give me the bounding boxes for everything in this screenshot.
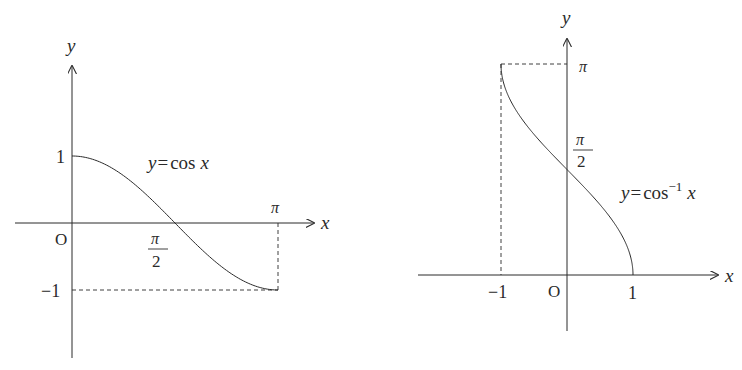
arccos-function-label: y=cos−1x	[619, 179, 696, 203]
left-x-axis-label: x	[320, 212, 330, 233]
diagram-canvas: y x O 1 −1 π 2 π y=cosx y x O −1 1 π π 2	[0, 0, 742, 370]
left-tick-pi: π	[271, 199, 280, 216]
right-tick-pi-half-den: 2	[577, 152, 586, 171]
right-x-axis-label: x	[724, 265, 734, 286]
cos-function-label: y=cosx	[146, 152, 209, 173]
right-tick-1: 1	[628, 283, 637, 303]
right-tick-pi-half-num: π	[576, 131, 585, 148]
right-graph: y x O −1 1 π π 2 y=cos−1x	[418, 7, 734, 331]
left-tick-1: 1	[56, 147, 65, 167]
left-tick-pi-half-den: 2	[152, 252, 161, 271]
right-origin-label: O	[548, 282, 560, 301]
left-graph: y x O 1 −1 π 2 π y=cosx	[15, 35, 330, 358]
left-tick-minus-1: −1	[41, 281, 60, 301]
left-origin-label: O	[55, 230, 67, 249]
left-tick-pi-half-num: π	[151, 230, 160, 247]
right-tick-pi: π	[579, 58, 588, 75]
right-tick-minus-1: −1	[488, 282, 507, 302]
right-y-axis-label: y	[560, 7, 571, 28]
left-y-axis-label: y	[65, 35, 76, 56]
